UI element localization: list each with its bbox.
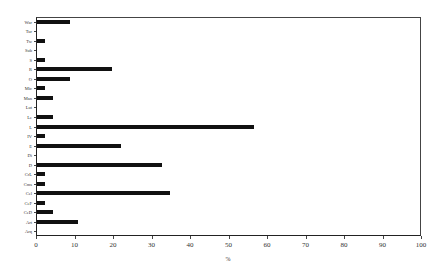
y-axis-label: Le (27, 114, 32, 119)
x-axis-tick (190, 236, 191, 239)
x-axis-tick (267, 236, 268, 239)
y-axis-tick (34, 222, 36, 223)
bar (37, 144, 121, 148)
bar (37, 182, 45, 186)
y-axis-tick (34, 88, 36, 89)
y-axis-tick (34, 212, 36, 213)
x-axis-tick-label: 80 (341, 241, 348, 249)
y-axis-tick (34, 146, 36, 147)
y-axis-tick (34, 50, 36, 51)
y-axis-label: CrL (25, 172, 32, 177)
y-axis-tick (34, 60, 36, 61)
y-axis-tick (34, 174, 36, 175)
x-axis-title: % (226, 256, 231, 262)
y-axis-label: War (25, 19, 32, 24)
x-axis-tick-label: 0 (34, 241, 38, 249)
bar (37, 210, 53, 214)
y-axis-label: Cel (26, 191, 32, 196)
y-axis-tick (34, 165, 36, 166)
y-axis-tick (34, 127, 36, 128)
y-axis-label: IV (27, 134, 32, 139)
x-axis-tick-label: 60 (264, 241, 271, 249)
y-axis-tick (34, 31, 36, 32)
y-axis-tick (34, 107, 36, 108)
y-axis-tick (34, 203, 36, 204)
x-axis-tick (421, 236, 422, 239)
bar (37, 163, 162, 167)
y-axis-label: Di (28, 153, 33, 158)
bar (37, 191, 170, 195)
bar (37, 20, 70, 24)
y-axis-tick (34, 69, 36, 70)
y-axis-label: L (29, 124, 32, 129)
x-axis-tick-label: 70 (302, 241, 309, 249)
bar (37, 96, 53, 100)
bar (37, 39, 45, 43)
bar (37, 86, 45, 90)
y-axis-label: O (29, 76, 32, 81)
x-axis-tick (383, 236, 384, 239)
y-axis-label: Arq (25, 229, 32, 234)
y-axis-label: Mic (25, 86, 32, 91)
y-axis-label: S (29, 57, 32, 62)
y-axis-label: Lut (26, 105, 32, 110)
y-axis-tick (34, 79, 36, 80)
bar (37, 125, 254, 129)
bar (37, 172, 45, 176)
x-axis-tick (152, 236, 153, 239)
x-axis-tick-label: 90 (379, 241, 386, 249)
horizontal-bar-chart: WarTurTwSubSROMicManLutLeLIVEDiDCrLCmsCe… (0, 0, 448, 278)
y-axis-label: Tw (26, 38, 32, 43)
y-axis-tick (34, 193, 36, 194)
y-axis-tick (34, 155, 36, 156)
y-axis-tick (34, 184, 36, 185)
y-axis-label: Art (26, 219, 32, 224)
y-axis-label: Man (24, 95, 32, 100)
y-axis-label: R (29, 67, 32, 72)
y-axis-label: Tur (26, 29, 32, 34)
x-axis-tick (344, 236, 345, 239)
x-axis-tick (36, 236, 37, 239)
y-axis-label: D (29, 162, 32, 167)
y-axis-tick (34, 98, 36, 99)
y-axis-label: Sub (25, 48, 32, 53)
x-axis-tick-label: 40 (187, 241, 194, 249)
x-axis-tick-label: 100 (416, 241, 427, 249)
y-axis-tick (34, 117, 36, 118)
bar (37, 77, 70, 81)
bar (37, 115, 53, 119)
y-axis-tick (34, 231, 36, 232)
x-axis-tick (229, 236, 230, 239)
x-axis-tick-label: 20 (110, 241, 117, 249)
bar (37, 220, 78, 224)
y-axis-tick (34, 22, 36, 23)
y-axis-label: CeF (24, 200, 32, 205)
x-axis-tick (75, 236, 76, 239)
bar (37, 58, 45, 62)
y-axis-label: Cms (24, 181, 32, 186)
y-axis-tick (34, 136, 36, 137)
bar (37, 134, 45, 138)
y-axis-label: E (29, 143, 32, 148)
bar (37, 67, 112, 71)
y-axis-tick (34, 41, 36, 42)
y-axis-label: CeD (24, 210, 32, 215)
x-axis-tick (306, 236, 307, 239)
x-axis-tick (113, 236, 114, 239)
bar (37, 201, 45, 205)
x-axis-tick-label: 50 (225, 241, 232, 249)
x-axis-tick-label: 30 (148, 241, 155, 249)
x-axis-tick-label: 10 (71, 241, 78, 249)
